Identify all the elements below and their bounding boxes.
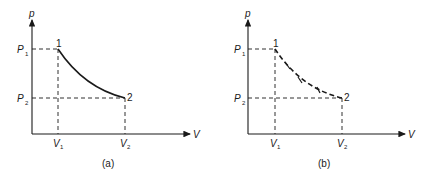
panel-caption: (a) [102,158,114,169]
x-axis-label: V [408,129,416,140]
p1-label: P [234,44,241,55]
panel-caption: (b) [318,158,330,169]
process-curve-dashed [275,49,342,98]
pv-diagrams: p V P 1 P 2 V 1 V 2 1 2 (a) p V P 1 P [0,0,434,179]
v2-subscript: 2 [344,144,348,150]
p2-label: P [234,93,241,104]
curve-tick [298,77,302,83]
v1-subscript: 1 [277,144,281,150]
y-axis-label: p [244,8,251,19]
p2-subscript: 2 [242,100,246,106]
x-axis-label: V [193,129,201,140]
state-1-label: 1 [56,38,62,49]
v2-subscript: 2 [127,144,131,150]
process-curve-solid [58,49,125,98]
y-axis-label: p [28,8,35,19]
state-2-label: 2 [344,92,350,103]
state-1-label: 1 [273,38,279,49]
p2-subscript: 2 [25,100,29,106]
p1-subscript: 1 [25,51,29,57]
curve-tick [317,87,320,93]
p1-subscript: 1 [242,51,246,57]
state-2-label: 2 [127,92,133,103]
v1-subscript: 1 [60,144,64,150]
panel-a: p V P 1 P 2 V 1 V 2 1 2 (a) [17,8,201,169]
p2-label: P [17,93,24,104]
panel-b: p V P 1 P 2 V 1 V 2 1 2 (b) [234,8,416,169]
p1-label: P [17,44,24,55]
curve-tick [285,62,290,69]
